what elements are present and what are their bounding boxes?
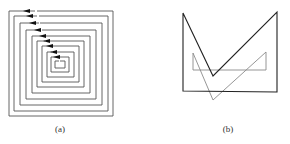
figure-canvas [0,0,290,144]
spiral-path [9,11,113,116]
spiral-figure [9,9,113,116]
arrow-icon [23,9,60,59]
v-shape-figure [183,12,277,100]
caption-b: (b) [223,124,234,134]
caption-a: (a) [55,124,65,134]
black-v-shape [183,12,277,92]
